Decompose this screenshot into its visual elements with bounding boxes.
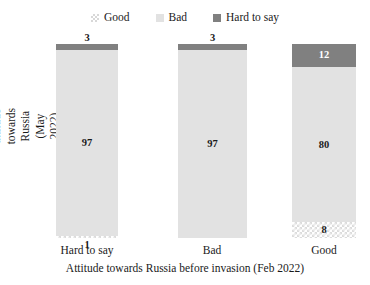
bar-group-bad: 3 97 (178, 32, 247, 238)
segment-bad[interactable]: 80 (292, 67, 356, 222)
x-axis-title: Attitude towards Russia before invasion … (0, 263, 370, 275)
x-tick-bad: Bad (165, 245, 259, 257)
segment-good[interactable]: 8 (292, 222, 356, 238)
x-tick-hard-to-say: Hard to say (40, 245, 134, 257)
x-tick-good: Good (277, 245, 370, 257)
legend-item-bad[interactable]: Bad (156, 12, 188, 24)
chart-legend: Good Bad Hard to say (0, 10, 370, 26)
plot-area: 3 97 1 3 97 (40, 32, 366, 238)
legend-item-hard-to-say[interactable]: Hard to say (213, 12, 279, 24)
bar-group-hard-to-say: 3 97 1 (56, 32, 118, 238)
bar-1-hard-to-say-value: 3 (56, 33, 118, 44)
segment-bad[interactable]: 97 (56, 50, 118, 236)
segment-bad-label: 97 (82, 138, 93, 149)
segment-bad-label: 80 (319, 140, 330, 151)
bar-2-hard-to-say-value: 3 (178, 33, 247, 44)
segment-hard-to-say[interactable]: 12 (292, 44, 356, 67)
bar-good[interactable]: 12 80 8 (292, 44, 356, 238)
bad-swatch-icon (156, 14, 164, 22)
segment-hard-to-say-label: 12 (319, 50, 330, 61)
segment-bad[interactable]: 97 (178, 50, 247, 238)
bar-hard-to-say[interactable]: 97 (56, 44, 118, 238)
bar-group-good: 12 80 8 (292, 32, 356, 238)
legend-label-hard-to-say: Hard to say (226, 12, 279, 24)
segment-bad-label: 97 (207, 139, 218, 150)
y-axis-title: Current attitude towards Russia (May 202… (2, 24, 34, 229)
x-axis-tick-labels: Hard to say Bad Good (40, 245, 366, 261)
legend-label-good: Good (104, 12, 130, 24)
segment-good-label: 8 (321, 225, 326, 236)
legend-label-bad: Bad (169, 12, 188, 24)
segment-good[interactable] (56, 236, 118, 238)
legend-item-good[interactable]: Good (91, 12, 130, 24)
hard-to-say-swatch-icon (213, 14, 221, 22)
good-swatch-icon (91, 14, 99, 22)
stacked-bar-chart: Good Bad Hard to say Current attitude to… (0, 0, 370, 285)
bar-bad[interactable]: 97 (178, 44, 247, 238)
